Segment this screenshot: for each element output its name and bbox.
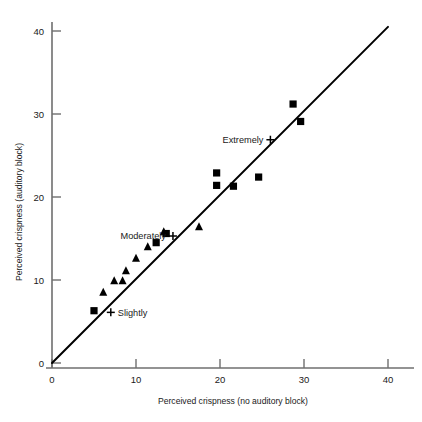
y-tick-label: 20 bbox=[33, 192, 44, 203]
data-point-square bbox=[213, 182, 220, 189]
annotation-moderately: Moderately bbox=[121, 231, 167, 241]
y-axis-ticks bbox=[52, 31, 61, 363]
annotation-labels: SlightlyModeratelyExtremely bbox=[118, 135, 264, 318]
data-point-square bbox=[90, 307, 97, 314]
data-point-triangle bbox=[119, 276, 127, 284]
y-tick-label: 10 bbox=[33, 275, 44, 286]
scatter-plot-figure: 010203040 010203040 SlightlyModeratelyEx… bbox=[0, 0, 422, 422]
x-tick-label: 0 bbox=[49, 374, 54, 385]
plot-canvas: 010203040 010203040 SlightlyModeratelyEx… bbox=[0, 0, 422, 422]
x-axis-tick-labels: 010203040 bbox=[49, 374, 393, 385]
annotation-slightly: Slightly bbox=[118, 308, 148, 318]
x-axis-title: Perceived crispness (no auditory block) bbox=[158, 396, 308, 406]
annotation-extremely: Extremely bbox=[223, 135, 264, 145]
data-point-triangle bbox=[195, 222, 203, 230]
data-point-triangle bbox=[110, 276, 118, 284]
y-tick-label: 40 bbox=[33, 26, 44, 37]
data-point-square bbox=[255, 173, 262, 180]
x-tick-label: 10 bbox=[131, 374, 142, 385]
data-markers bbox=[90, 100, 304, 316]
y-tick-label: 0 bbox=[39, 358, 44, 369]
data-point-square bbox=[289, 100, 296, 107]
data-point-triangle bbox=[122, 266, 130, 274]
data-point-triangle bbox=[132, 254, 140, 262]
data-point-plus bbox=[107, 308, 115, 316]
x-axis-ticks bbox=[52, 359, 388, 368]
axis-spines bbox=[46, 22, 414, 368]
data-point-square bbox=[213, 169, 220, 176]
y-axis-tick-labels: 010203040 bbox=[33, 26, 44, 369]
x-tick-label: 40 bbox=[383, 374, 394, 385]
x-tick-label: 20 bbox=[215, 374, 226, 385]
reference-line bbox=[52, 27, 388, 363]
y-tick-label: 30 bbox=[33, 109, 44, 120]
data-point-triangle bbox=[144, 242, 152, 250]
data-point-triangle bbox=[99, 288, 107, 296]
y-axis-title: Perceived crispness (auditory block) bbox=[14, 143, 24, 281]
x-tick-label: 30 bbox=[299, 374, 310, 385]
data-point-square bbox=[230, 183, 237, 190]
data-point-square bbox=[297, 118, 304, 125]
